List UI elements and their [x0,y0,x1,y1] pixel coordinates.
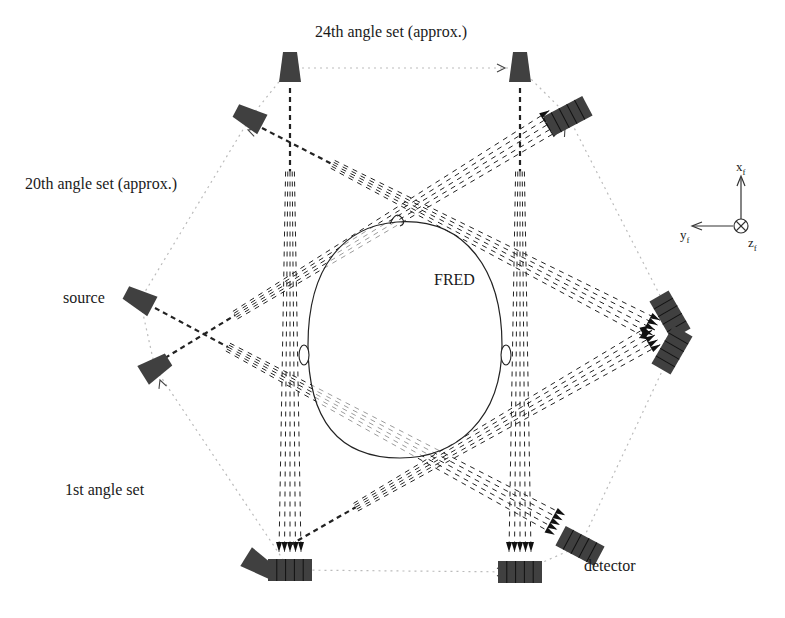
ray-arrowhead-icon [512,542,518,552]
detector-det-bottom-l [268,559,312,581]
right-ear [501,345,511,365]
source-src-24-right [509,52,531,82]
ray-arrowhead-icon [282,542,288,552]
ray-arrowhead-icon [276,542,282,552]
detector-det-bottom-r [498,561,542,583]
label-20th-angle-set: 20th angle set (approx.) [25,176,177,192]
phantom-head [299,215,511,458]
label-detector: detector [584,558,636,574]
ray-arrowhead-icon [523,542,529,552]
label-1st-angle-set: 1st angle set [65,482,144,498]
beam-bundle [276,88,304,552]
source-src-24-left [279,52,301,82]
ray-arrowhead-icon [517,542,523,552]
frame-axes [692,176,748,233]
beam-bundle [506,88,534,552]
source-src-1-left [121,283,158,317]
head-outline [308,222,502,458]
detector-det-right-b [651,325,692,374]
axis-label-z: zf [748,236,757,253]
detector-det-top-right [543,96,592,136]
label-phantom-fred: FRED [434,272,475,288]
axis-label-y: yf [680,228,690,245]
left-ear [299,345,309,365]
label-24th-angle-set: 24th angle set (approx.) [315,24,467,40]
ray-arrowhead-icon [528,542,534,552]
axis-z-sub: f [754,243,757,253]
source-src-20-a [231,101,268,135]
label-source: source [63,290,105,306]
orbit-direction-chevron-icon [156,379,166,389]
axis-y-sub: f [687,235,690,245]
ray-arrowhead-icon [506,542,512,552]
axis-x-sub: f [743,167,746,177]
ray-arrowhead-icon [298,542,304,552]
axis-label-x: xf [736,160,746,177]
tomography-geometry-diagram [0,0,785,618]
